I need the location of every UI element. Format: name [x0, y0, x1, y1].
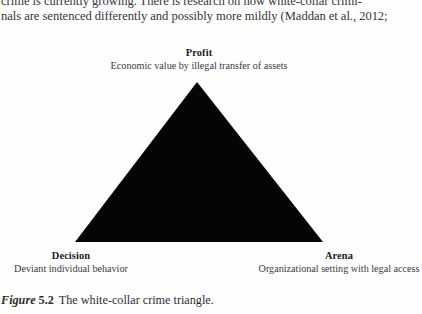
vertex-label-decision: Decision Deviant individual behavior	[0, 250, 150, 275]
vertex-title-decision: Decision	[0, 250, 150, 262]
vertex-subtitle-arena: Organizational setting with legal access	[248, 262, 422, 275]
caption-text: The white-collar crime triangle.	[59, 293, 214, 307]
textbook-page: crime is currently growing. There is res…	[0, 0, 422, 314]
white-collar-crime-triangle-icon	[0, 40, 422, 285]
body-text-line-1: crime is currently growing. There is res…	[1, 0, 362, 8]
figure-caption: Figure 5.2The white-collar crime triangl…	[1, 292, 421, 308]
caption-figure-word: Figure	[1, 293, 36, 307]
vertex-subtitle-decision: Deviant individual behavior	[0, 262, 150, 275]
vertex-label-arena: Arena Organizational setting with legal …	[248, 250, 422, 275]
vertex-title-arena: Arena	[248, 250, 422, 262]
figure-5-2: Profit Economic value by illegal transfe…	[0, 40, 422, 285]
body-text-line-2: nals are sentenced differently and possi…	[1, 8, 388, 24]
caption-figure-number: 5.2	[39, 293, 54, 307]
triangle-shape-container	[0, 40, 422, 285]
